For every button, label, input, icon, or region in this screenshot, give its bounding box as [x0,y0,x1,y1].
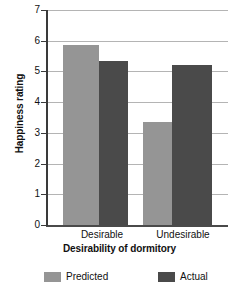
bar-desirable-actual [99,61,128,225]
y-tick-label-7: 7 [20,5,40,15]
y-tick-label-2: 2 [20,159,40,169]
chart-legend: Predicted Actual [0,270,239,286]
x-group-label-undesirable: Undesirable [142,229,224,240]
bars-layer [46,10,228,225]
bar-desirable-predicted [63,45,99,225]
legend-label-actual: Actual [180,271,208,282]
x-group-label-desirable: Desirable [66,229,138,240]
bar-undesirable-actual [172,65,212,225]
x-axis-title: Desirability of dormitory [0,243,239,254]
y-tick-mark-0 [41,225,46,226]
legend-label-predicted: Predicted [66,271,108,282]
y-tick-label-6: 6 [20,36,40,46]
legend-swatch-predicted-icon [44,272,61,282]
y-tick-label-4: 4 [20,97,40,107]
legend-swatch-actual-icon [158,272,175,282]
x-axis-baseline [46,225,228,227]
bar-undesirable-predicted [143,122,172,225]
legend-item-actual: Actual [158,271,208,282]
y-tick-label-1: 1 [20,189,40,199]
y-tick-label-3: 3 [20,128,40,138]
y-tick-label-5: 5 [20,66,40,76]
y-tick-label-0: 0 [20,220,40,230]
legend-item-predicted: Predicted [44,271,108,282]
bar-chart-figure: Happiness rating 7 6 5 4 3 2 1 0 [0,0,239,295]
